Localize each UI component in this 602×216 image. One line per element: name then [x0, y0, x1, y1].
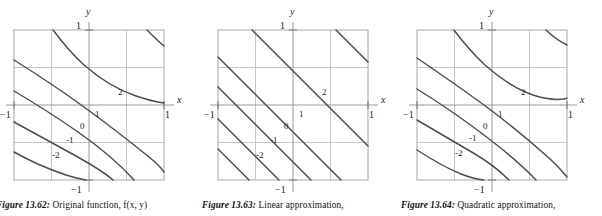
contour-label-0: 0 — [284, 121, 289, 131]
y-axis-label: y — [289, 6, 295, 17]
y-tick-label-neg1: −1 — [474, 184, 485, 195]
contour-label-2: 2 — [322, 87, 327, 97]
contour-label-1: 1 — [498, 109, 503, 119]
contour-label-neg2: -2 — [455, 148, 463, 158]
x-axis-label: x — [579, 94, 585, 105]
contour-label-2: 2 — [118, 87, 123, 97]
figure-caption-text: Original function, f(x, y) — [52, 200, 147, 210]
x-tick-label-neg1: −1 — [403, 109, 414, 120]
figure-caption-text: Linear approximation, — [258, 200, 343, 210]
contour-plot-original-function: 2 1 0 -1 -2 y x −1 1 1 −1 — [0, 0, 200, 200]
figure-caption-original-function: Figure 13.62: Original function, f(x, y) — [0, 199, 196, 211]
figure-panel-original-function: 2 1 0 -1 -2 y x −1 1 1 −1 Figure 13.62: … — [0, 0, 200, 216]
y-tick-label-1: 1 — [479, 20, 484, 31]
figure-caption-text: Quadratic approximation, — [457, 200, 555, 210]
contour-label-neg1: -1 — [469, 133, 477, 143]
figure-caption-label: Figure 13.63: — [202, 200, 256, 210]
figure-panel-quadratic-approximation: 2 1 0 -1 -2 y x −1 1 1 −1 Figure 13.64: … — [400, 0, 600, 216]
figure-caption-quadratic-approximation: Figure 13.64: Quadratic approximation, — [401, 199, 601, 211]
contour-label-neg2: -2 — [52, 150, 60, 160]
figure-row: 2 1 0 -1 -2 y x −1 1 1 −1 Figure 13.62: … — [0, 0, 602, 216]
x-tick-label-neg1: −1 — [204, 109, 215, 120]
y-tick-label-neg1: −1 — [71, 184, 82, 195]
contour-label-neg2: -2 — [256, 150, 264, 160]
x-tick-label-1: 1 — [165, 109, 170, 120]
x-tick-label-1: 1 — [369, 109, 374, 120]
y-tick-label-neg1: −1 — [275, 184, 286, 195]
figure-panel-linear-approximation: 2 1 0 -1 -2 y x −1 1 1 −1 Figure 13.63: … — [200, 0, 400, 216]
y-axis-label: y — [85, 6, 91, 17]
x-axis-label: x — [176, 94, 182, 105]
plot-axes — [6, 22, 174, 192]
contour-label-0: 0 — [80, 121, 85, 131]
x-tick-label-neg1: −1 — [0, 109, 11, 120]
contour-plot-quadratic-approximation: 2 1 0 -1 -2 y x −1 1 1 −1 — [400, 0, 600, 200]
x-axis-label: x — [380, 94, 386, 105]
contour-plot-linear-approximation: 2 1 0 -1 -2 y x −1 1 1 −1 — [200, 0, 400, 200]
contour-label-group: 2 1 0 -1 -2 — [256, 87, 327, 160]
contour-label-1: 1 — [299, 109, 304, 119]
contour-label-neg1: -1 — [66, 135, 74, 145]
contour-label-2: 2 — [521, 87, 526, 97]
contour-label-1: 1 — [95, 109, 100, 119]
y-tick-label-1: 1 — [280, 20, 285, 31]
contour-label-neg1: -1 — [270, 135, 278, 145]
y-axis-label: y — [488, 6, 494, 17]
contour-label-group: 2 1 0 -1 -2 — [455, 87, 526, 158]
axis-label-group: y x −1 1 1 −1 — [0, 6, 182, 195]
figure-caption-linear-approximation: Figure 13.63: Linear approximation, — [202, 199, 402, 211]
y-tick-label-1: 1 — [76, 20, 81, 31]
contour-label-0: 0 — [483, 121, 488, 131]
figure-caption-label: Figure 13.62: — [0, 200, 50, 210]
x-tick-label-1: 1 — [568, 109, 573, 120]
figure-caption-label: Figure 13.64: — [401, 200, 455, 210]
